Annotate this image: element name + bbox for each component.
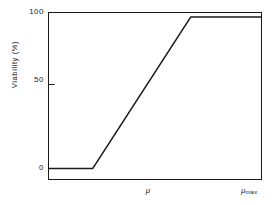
chart-figure: Viability (%) 100 50 0 μ μmax (0, 0, 275, 205)
plot-area (0, 0, 275, 205)
plot-frame (49, 13, 262, 180)
data-series-viability (48, 17, 261, 169)
